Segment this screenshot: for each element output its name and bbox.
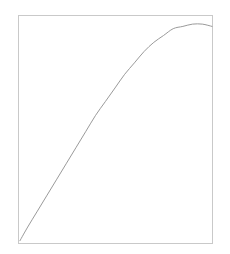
data-curve-line <box>20 24 212 241</box>
plot-area <box>0 0 230 254</box>
chart-figure <box>0 0 230 254</box>
plot-frame-border <box>19 16 213 244</box>
